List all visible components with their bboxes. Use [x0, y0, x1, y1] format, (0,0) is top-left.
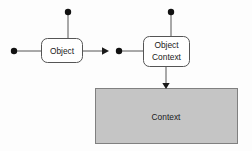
node-object-context-label-line1: Object — [154, 40, 179, 50]
node-object-context-label-line2: Context — [152, 52, 182, 62]
terminal-left-object-context — [116, 48, 122, 54]
diagram-svg: Context Object Object Context — [0, 0, 252, 151]
node-object-label: Object — [50, 46, 75, 56]
arrowhead-object-to-right — [102, 47, 109, 54]
terminal-left-object — [11, 48, 17, 54]
region-context-label: Context — [152, 112, 182, 122]
terminal-top-object — [65, 9, 71, 15]
diagram-canvas: Context Object Object Context — [0, 0, 252, 151]
terminal-top-object-context — [168, 9, 174, 15]
